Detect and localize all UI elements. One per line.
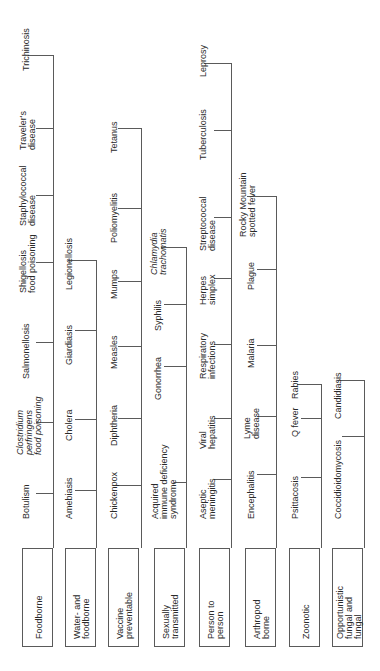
disease-label: Legionellosis (65, 238, 74, 290)
connector-tick (257, 474, 276, 475)
connector-line (53, 55, 54, 548)
disease-label: Streptococcal disease (199, 196, 217, 251)
disease-label: Encephalitis (247, 470, 256, 519)
category-label: Opportunistic fungal and fungal (336, 586, 363, 639)
disease-label: Herpes simplex (199, 274, 217, 305)
disease-label: Aseptic meningitis (199, 478, 217, 519)
disease-label: Tetanus (110, 121, 119, 153)
disease-classification-diagram: Foodborne Botulism Clostridium perfringe… (0, 0, 380, 671)
connector-tick (36, 342, 53, 343)
connector-tick (118, 418, 141, 419)
category-row-vaccine-preventable: Vaccine preventable Chickenpox Diphtheri… (108, 0, 142, 671)
connector-tick (36, 128, 53, 129)
disease-label: Leprosy (199, 45, 208, 77)
category-box: Vaccine preventable (108, 548, 139, 647)
connector-tick (118, 128, 141, 129)
disease-label: Psittacosis (291, 476, 300, 519)
category-label: Vaccine preventable (116, 592, 134, 639)
disease-label: Amebiasis (65, 477, 74, 519)
connector-tick (75, 490, 96, 491)
connector-tick (297, 384, 321, 385)
disease-label: Gonorrhea (154, 357, 163, 400)
connector-line (364, 380, 365, 548)
category-row-foodborne: Foodborne Botulism Clostridium perfringe… (22, 0, 56, 671)
connector-tick (118, 208, 141, 209)
disease-label: Mumps (110, 269, 119, 299)
connector-tick (342, 436, 364, 437)
connector-tick (75, 419, 96, 420)
connector-line (96, 260, 97, 548)
disease-label: Rabies (291, 371, 300, 399)
disease-label: Acquired immune deficiency syndrome (151, 444, 178, 519)
category-row-zoonotic: Zoonotic Psittacosis Q fever Rabies (289, 0, 323, 671)
disease-label: Rocky Mountain spotted fever (239, 172, 257, 237)
disease-label: Shigellosis food poisoning (19, 234, 37, 293)
category-box: Opportunistic fungal and fungal (332, 548, 363, 647)
category-row-water-and-foodborne: Water- and foodborne Amebiasis Cholera G… (65, 0, 99, 671)
disease-label: Measles (110, 335, 119, 369)
disease-label: Tuberculosis (199, 109, 208, 160)
disease-label: Candidiasis (334, 372, 343, 419)
disease-label: Chickenpox (110, 472, 119, 519)
disease-label: Lyme disease (243, 408, 261, 439)
disease-label: Cholera (65, 409, 74, 441)
connector-line (186, 247, 187, 548)
category-label: Water- and foodborne (73, 595, 91, 639)
disease-label: Chlamydia trachomatis (150, 228, 168, 275)
connector-tick (257, 269, 276, 270)
connector-tick (301, 418, 321, 419)
category-label: Arthropod borne (253, 599, 271, 639)
connector-tick (301, 477, 321, 478)
connector-tick (257, 345, 276, 346)
disease-label: Giardiasis (65, 325, 74, 365)
category-box: Sexually transmitted (154, 548, 185, 647)
disease-label: Botulism (22, 484, 31, 519)
disease-label: Syphilis (154, 300, 163, 331)
category-box: Zoonotic (289, 548, 320, 647)
disease-label: Traveler's disease (19, 111, 37, 150)
disease-label: Diphtheria (110, 405, 119, 446)
connector-line (321, 384, 322, 548)
disease-label: Malaria (247, 338, 256, 368)
connector-tick (118, 346, 141, 347)
category-label: Foodborne (35, 595, 44, 639)
connector-line (276, 196, 277, 548)
disease-label: Staphylococcal disease (19, 165, 37, 226)
connector-line (141, 128, 142, 548)
category-row-arthropod-borne: Arthropod borne Encephalitis Lyme diseas… (245, 0, 279, 671)
category-box: Arthropod borne (245, 548, 276, 647)
disease-label: Respiratory infections (199, 333, 217, 379)
category-label: Sexually transmitted (162, 594, 180, 639)
disease-label: Poliomyelitis (110, 193, 119, 243)
category-label: Person to person (207, 600, 225, 639)
connector-tick (36, 262, 53, 263)
disease-label: Viral hepatitis (199, 415, 217, 449)
category-row-opportunistic-fungal: Opportunistic fungal and fungal Coccidio… (332, 0, 366, 671)
connector-tick (36, 195, 53, 196)
connector-tick (204, 63, 231, 64)
connector-tick (164, 366, 186, 367)
disease-label: Clostridium perfringens food poisoning (16, 396, 43, 455)
disease-label: Trichinosis (22, 28, 31, 71)
category-row-sexually-transmitted: Sexually transmitted Acquired immune def… (154, 0, 188, 671)
category-box: Person to person (199, 548, 230, 647)
category-box: Water- and foodborne (65, 548, 96, 647)
connector-tick (28, 55, 53, 56)
disease-label: Coccidioidomycosis (334, 440, 343, 519)
connector-tick (36, 493, 53, 494)
connector-line (231, 63, 232, 548)
disease-label: Q fever (291, 407, 300, 437)
connector-tick (75, 330, 96, 331)
disease-label: Plague (247, 262, 256, 290)
category-label: Zoonotic (302, 604, 311, 639)
connector-tick (164, 304, 186, 305)
category-box: Foodborne (22, 548, 53, 647)
connector-tick (118, 281, 141, 282)
disease-label: Salmonellosis (22, 323, 31, 379)
category-row-person-to-person: Person to person Aseptic meningitis Vira… (199, 0, 233, 671)
connector-tick (118, 485, 141, 486)
connector-tick (214, 130, 231, 131)
